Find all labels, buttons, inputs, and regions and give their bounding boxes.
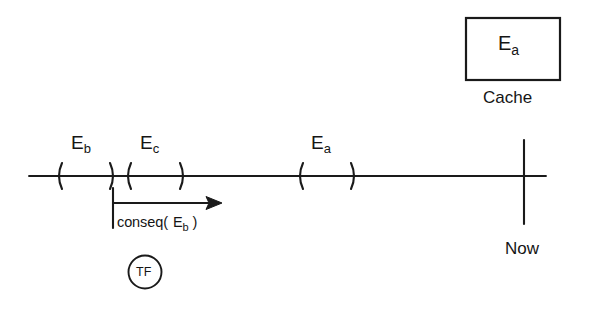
interval-label-ea-sub: a (324, 141, 331, 156)
interval-label-eb: Eb (71, 133, 91, 155)
tf-node-label: TF (136, 266, 151, 279)
interval-label-ec-sub: c (153, 141, 160, 156)
conseq-label-suffix: ) (189, 214, 198, 230)
interval-label-ec: Ec (140, 133, 159, 155)
timeline-diagram-figure: Ea Cache Eb Ec Ea conseq(Eb) TF Now (0, 0, 591, 310)
now-marker-caption: Now (505, 240, 539, 257)
cache-event-label-sub: a (511, 42, 519, 58)
cache-caption: Cache (483, 89, 532, 106)
interval-label-ec-main: E (140, 132, 153, 153)
cache-event-label: Ea (498, 33, 519, 57)
cache-event-label-main: E (498, 32, 511, 54)
interval-label-eb-sub: b (84, 141, 91, 156)
conseq-label-main: E (168, 214, 183, 230)
interval-label-eb-main: E (71, 132, 84, 153)
interval-label-ea: Ea (311, 133, 331, 155)
interval-label-ea-main: E (311, 132, 324, 153)
conseq-label-sub: b (182, 221, 188, 233)
conseq-arrow-label: conseq(Eb) (117, 215, 197, 233)
conseq-label-prefix: conseq( (117, 214, 168, 230)
